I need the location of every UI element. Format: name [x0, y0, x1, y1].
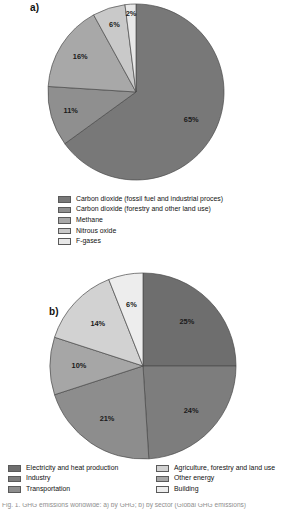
legend-b-left-column: Electricity and heat production Industry… — [8, 463, 156, 495]
legend-swatch-icon — [58, 217, 71, 224]
legend-item-label: Carbon dioxide (fossil fuel and industri… — [76, 196, 223, 203]
pie-chart-a: 65%11%16%6%2% — [0, 0, 283, 192]
legend-item-label: Electricity and heat production — [26, 465, 118, 472]
legend-a: Carbon dioxide (fossil fuel and industri… — [58, 194, 223, 247]
legend-b-right-column: Agriculture, forestry and land use Other… — [156, 463, 275, 495]
figure-caption-text: Fig. 1. GHG emissions worldwide: a) by G… — [2, 503, 283, 508]
pie-slice-value-label: 65% — [184, 115, 199, 124]
legend-swatch-icon — [8, 465, 21, 472]
legend-item[interactable]: Other energy — [156, 474, 275, 485]
legend-swatch-icon — [58, 228, 71, 235]
legend-swatch-icon — [58, 238, 71, 245]
legend-item-label: Methane — [76, 217, 103, 224]
legend-item-label: Other energy — [174, 475, 214, 482]
figure-caption-clipped: Fig. 1. GHG emissions worldwide: a) by G… — [0, 503, 283, 511]
pie-slice-value-label: 21% — [100, 414, 115, 423]
pie-slice-value-label: 24% — [184, 406, 199, 415]
pie-slice-value-label: 14% — [90, 319, 105, 328]
pie-slice-value-label: 10% — [72, 361, 87, 370]
legend-item[interactable]: Agriculture, forestry and land use — [156, 463, 275, 474]
legend-item[interactable]: Building — [156, 484, 275, 495]
pie-slice-value-label: 16% — [73, 52, 88, 61]
legend-item[interactable]: Industry — [8, 474, 156, 485]
pie-slice-value-label: 2% — [126, 9, 137, 18]
legend-item[interactable]: Carbon dioxide (fossil fuel and industri… — [58, 194, 223, 205]
figure-page: a) 65%11%16%6%2% Carbon dioxide (fossil … — [0, 0, 283, 511]
pie-chart-b-svg: 25%24%21%10%14%6% — [0, 269, 283, 464]
pie-chart-a-svg: 65%11%16%6%2% — [0, 0, 283, 192]
legend-item-label: F-gases — [76, 238, 101, 245]
pie-slice-value-label: 11% — [64, 106, 79, 115]
legend-swatch-icon — [156, 486, 169, 493]
legend-b: Electricity and heat production Industry… — [8, 463, 283, 495]
legend-item[interactable]: Transportation — [8, 484, 156, 495]
pie-slice-value-label: 6% — [126, 300, 137, 309]
legend-swatch-icon — [8, 486, 21, 493]
legend-item-label: Agriculture, forestry and land use — [174, 465, 275, 472]
legend-item[interactable]: Carbon dioxide (forestry and other land … — [58, 205, 223, 216]
legend-item-label: Building — [174, 486, 199, 493]
legend-swatch-icon — [58, 196, 71, 203]
legend-swatch-icon — [156, 465, 169, 472]
legend-item-label: Carbon dioxide (forestry and other land … — [76, 206, 211, 213]
legend-swatch-icon — [58, 207, 71, 214]
pie-chart-b: 25%24%21%10%14%6% — [0, 269, 283, 464]
legend-swatch-icon — [156, 476, 169, 483]
legend-item-label: Nitrous oxide — [76, 228, 116, 235]
pie-slice-value-label: 25% — [179, 317, 194, 326]
legend-swatch-icon — [8, 476, 21, 483]
legend-item[interactable]: Electricity and heat production — [8, 463, 156, 474]
legend-item-label: Industry — [26, 475, 51, 482]
legend-item[interactable]: F-gases — [58, 236, 223, 247]
legend-item[interactable]: Methane — [58, 215, 223, 226]
pie-slice-value-label: 6% — [109, 20, 120, 29]
legend-item-label: Transportation — [26, 486, 70, 493]
legend-item[interactable]: Nitrous oxide — [58, 226, 223, 237]
